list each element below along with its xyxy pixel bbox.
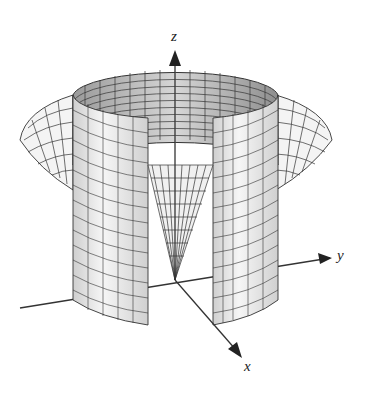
cone-surface (148, 165, 213, 280)
diagram-canvas (0, 0, 367, 394)
x-axis-arrow-icon (228, 342, 242, 358)
y-axis-label: y (337, 247, 344, 264)
z-axis-arrow-icon (169, 50, 181, 66)
x-axis-label: x (244, 358, 251, 375)
y-axis-arrow-icon (318, 253, 332, 264)
z-axis-label: z (171, 28, 177, 45)
